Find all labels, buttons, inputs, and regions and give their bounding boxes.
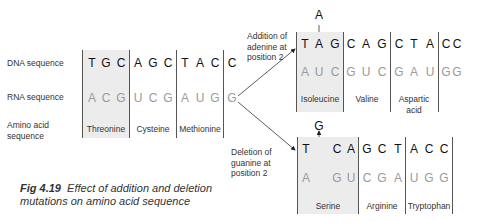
rna-base: G	[438, 171, 450, 185]
rna-base: G	[345, 65, 357, 79]
dna-base: C	[331, 142, 343, 156]
figure-caption: Fig 4.19 Effect of addition and deletion…	[20, 182, 212, 208]
annotation-line: Addition of	[247, 31, 287, 42]
divider	[438, 32, 439, 112]
dna-base: A	[408, 142, 420, 156]
amino-acid: Serine	[298, 201, 358, 212]
inserted-base-label: A	[313, 8, 325, 22]
dna-base: G	[329, 37, 341, 51]
caption-number: Fig 4.19	[20, 182, 61, 194]
rna-base: G	[451, 65, 463, 79]
rna-base: C	[376, 65, 388, 79]
dna-base: C	[345, 37, 357, 51]
rna-base: G	[393, 65, 405, 79]
dna-base: T	[392, 142, 404, 156]
dna-base: T	[299, 37, 311, 51]
dna-base: C	[451, 37, 463, 51]
rna-base: G	[423, 171, 435, 185]
caption-text: Effect of addition and deletion	[67, 182, 212, 194]
dna-base: G	[376, 37, 388, 51]
rna-base: U	[313, 65, 325, 79]
amino-acid: Tryptophan	[406, 201, 452, 212]
dna-base: T	[408, 37, 420, 51]
rna-base: A	[300, 171, 312, 185]
dna-base: C	[376, 142, 388, 156]
dna-base: A	[345, 142, 357, 156]
rna-base: U	[345, 171, 357, 185]
deletion-annotation: Deletion of guanine at position 2	[231, 147, 272, 179]
dna-base: C	[393, 37, 405, 51]
dna-base: A	[313, 37, 325, 51]
rna-base: C	[361, 171, 373, 185]
rna-base: U	[360, 65, 372, 79]
amino-acid: Arginine	[359, 201, 405, 212]
rna-base: A	[392, 171, 404, 185]
amino-acid-line: Aspartic	[391, 94, 437, 105]
annotation-line: guanine at	[231, 158, 272, 169]
rna-base: U	[424, 65, 436, 79]
removed-base-label: G	[313, 119, 325, 133]
amino-acid: Isoleucine	[297, 94, 343, 105]
rna-base: G	[331, 171, 343, 185]
annotation-line: Deletion of	[231, 147, 272, 158]
deletion-arrow-icon	[238, 102, 295, 150]
divider	[452, 137, 453, 214]
rna-base: G	[376, 171, 388, 185]
dna-base: G	[361, 142, 373, 156]
rna-base: C	[329, 65, 341, 79]
rna-base: A	[299, 65, 311, 79]
amino-acid: Valine	[344, 94, 390, 105]
dna-base: C	[423, 142, 435, 156]
rna-base: A	[408, 65, 420, 79]
addition-annotation: Addition of adenine at position 2	[247, 31, 287, 63]
caption-text-line2: mutations on amino acid sequence	[20, 195, 212, 208]
dna-base: A	[424, 37, 436, 51]
annotation-line: position 2	[247, 52, 287, 63]
dna-base: A	[360, 37, 372, 51]
amino-acid-line: acid	[391, 105, 437, 116]
annotation-line: adenine at	[247, 42, 287, 53]
dna-base: C	[438, 142, 450, 156]
amino-acid: Aspartic acid	[391, 94, 437, 115]
dna-base: T	[300, 142, 312, 156]
annotation-line: position 2	[231, 168, 272, 179]
rna-base: U	[408, 171, 420, 185]
